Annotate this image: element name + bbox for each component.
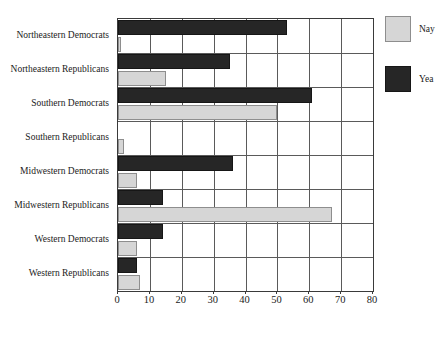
x-tick-label: 30 (207, 294, 218, 305)
category-label: Western Republicans (29, 256, 109, 290)
x-tick-label: 60 (303, 294, 314, 305)
bar-yea (118, 224, 163, 239)
bar-nay (118, 173, 137, 188)
x-tick-label: 40 (239, 294, 250, 305)
x-tick-label: 0 (114, 294, 119, 305)
bar-chart: Northeastern DemocratsNortheastern Repub… (0, 0, 447, 341)
bar-nay (118, 105, 277, 120)
bar-nay (118, 71, 166, 86)
legend-label: Yea (419, 74, 433, 84)
plot-area (117, 18, 374, 292)
category-label: Southern Republicans (25, 120, 109, 154)
x-tick-label: 20 (176, 294, 187, 305)
bar-yea (118, 20, 287, 35)
x-tick-label: 80 (367, 294, 378, 305)
bar-yea (118, 258, 137, 273)
x-tick-label: 10 (144, 294, 155, 305)
bar-yea (118, 190, 163, 205)
x-tick-label: 70 (335, 294, 346, 305)
legend-swatch-nay (385, 16, 411, 42)
legend-item-yea[interactable]: Yea (385, 66, 433, 92)
category-label: Midwestern Democrats (20, 154, 109, 188)
bar-nay (118, 207, 332, 222)
x-axis: 01020304050607080 (117, 291, 372, 313)
bar-nay (118, 275, 140, 290)
bars-layer (118, 19, 373, 291)
bar-nay (118, 37, 121, 52)
chart-legend: NayYea (385, 16, 447, 108)
bar-yea (118, 156, 233, 171)
bar-nay (118, 139, 124, 154)
category-label: Northeastern Republicans (11, 52, 109, 86)
legend-swatch-yea (385, 66, 411, 92)
legend-label: Nay (419, 24, 435, 34)
category-label: Western Democrats (35, 222, 109, 256)
category-label: Northeastern Democrats (16, 18, 109, 52)
category-axis: Northeastern DemocratsNortheastern Repub… (0, 18, 113, 290)
bar-yea (118, 54, 230, 69)
x-tick-label: 50 (271, 294, 282, 305)
bar-nay (118, 241, 137, 256)
legend-item-nay[interactable]: Nay (385, 16, 435, 42)
category-label: Southern Democrats (31, 86, 109, 120)
category-label: Midwestern Republicans (14, 188, 109, 222)
bar-yea (118, 88, 312, 103)
